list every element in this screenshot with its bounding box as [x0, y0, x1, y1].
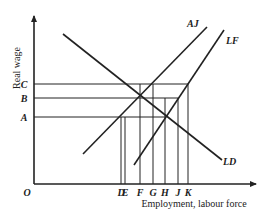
wage-label-c: C	[21, 79, 28, 90]
curve-label-lf: LF	[225, 35, 239, 46]
wage-label-a: A	[20, 112, 28, 123]
wage-label-b: B	[20, 93, 28, 104]
quantity-label-h: H	[160, 187, 170, 198]
origin-label: O	[23, 187, 30, 198]
quantity-label-j: J	[175, 187, 182, 198]
diagram-canvas: Real wage Employment, labour force O CBA…	[0, 0, 268, 218]
curve-ld	[63, 34, 222, 160]
labour-market-diagram: Real wage Employment, labour force O CBA…	[0, 0, 268, 218]
quantity-label-f: F	[136, 187, 144, 198]
x-axis-title: Employment, labour force	[141, 198, 247, 209]
quantity-lines: DEFGHJK	[116, 84, 192, 198]
curve-label-ld: LD	[222, 156, 236, 167]
curve-label-aj: AJ	[186, 18, 200, 29]
quantity-label-k: K	[184, 187, 193, 198]
quantity-label-g: G	[149, 187, 157, 198]
curves	[63, 27, 224, 165]
quantity-label-e: E	[121, 187, 129, 198]
wage-level-lines: CBA	[20, 79, 188, 123]
